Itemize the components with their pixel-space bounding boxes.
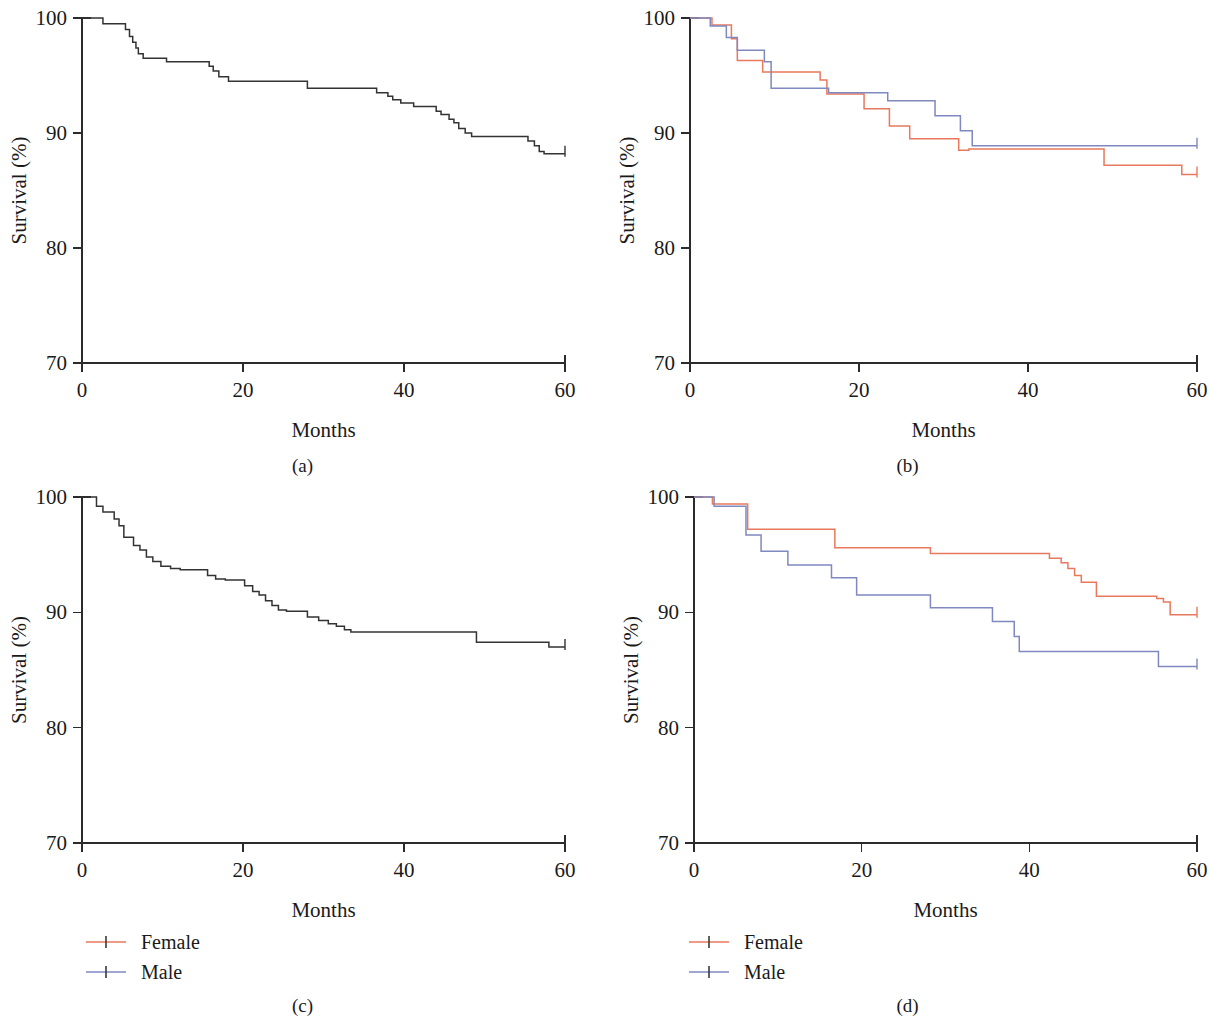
panel-c-ytick-label-90: 90: [46, 600, 67, 624]
panel-d-legend-label-female: Female: [744, 931, 803, 954]
panel-c-xtick-label-0: 0: [77, 858, 88, 882]
panel-c-legend-item-female: Female: [85, 930, 200, 954]
panel-b-caption-wrap: (b): [605, 455, 1210, 477]
panel-c-legend-item-male: Male: [85, 960, 200, 984]
panel-b-caption: (b): [896, 455, 918, 476]
panel-b-xtick-label-40: 40: [1018, 378, 1039, 402]
panel-a-xtick-label-0: 0: [77, 378, 88, 402]
panel-a-caption-wrap: (a): [0, 455, 605, 477]
panel-d-axis-lines: [694, 497, 1197, 843]
panel-b-labels: 7080901000204060MonthsSurvival (%): [615, 6, 1208, 442]
panel-c-ytick-label-100: 100: [36, 485, 68, 509]
panel-a-axis-lines: [82, 18, 565, 363]
panel-a-xtick-label-40: 40: [394, 378, 415, 402]
panel-b-ytick-label-80: 80: [654, 236, 675, 260]
panel-b-curve-female: [690, 18, 1197, 174]
panel-c-curve-overall: [82, 497, 565, 647]
panel-c-ytick-label-80: 80: [46, 716, 67, 740]
panel-c-ylabel: Survival (%): [7, 616, 31, 724]
male-legend-swatch-icon: [85, 963, 127, 981]
panel-d-curve-female: [694, 497, 1197, 615]
panel-a-ytick-label-70: 70: [46, 351, 67, 375]
panel-d-ytick-label-80: 80: [658, 716, 679, 740]
female-legend-swatch-icon: [688, 933, 730, 951]
panel-c-plot: 7080901000204060MonthsSurvival (%): [0, 480, 605, 890]
panel-c-legend: Female Male: [85, 930, 200, 984]
panel-c-axis-lines: [82, 497, 565, 843]
panel-a-curves: [82, 18, 565, 157]
panel-d-xtick-label-40: 40: [1019, 858, 1040, 882]
panel-d-legend: Female Male: [688, 930, 803, 984]
panel-d-ytick-label-90: 90: [658, 600, 679, 624]
panel-a-labels: 7080901000204060MonthsSurvival (%): [7, 6, 576, 442]
panel-c-labels: 7080901000204060MonthsSurvival (%): [7, 485, 576, 922]
panel-c-xlabel: Months: [291, 898, 355, 922]
panel-c-xtick-label-40: 40: [394, 858, 415, 882]
panel-d-ylabel: Survival (%): [619, 616, 643, 724]
panel-c-xtick-label-60: 60: [555, 858, 576, 882]
panel-b-curve-male: [690, 18, 1197, 146]
kaplan-meier-figure: 7080901000204060MonthsSurvival (%) (a) 7…: [0, 0, 1210, 1021]
panel-c: 7080901000204060MonthsSurvival (%) Femal…: [0, 480, 605, 1021]
panel-a: 7080901000204060MonthsSurvival (%) (a): [0, 0, 605, 480]
panel-a-plot: 7080901000204060MonthsSurvival (%): [0, 0, 605, 480]
panel-a-ylabel: Survival (%): [7, 137, 31, 245]
panel-b-axis-lines: [690, 18, 1197, 363]
female-legend-swatch-icon: [85, 933, 127, 951]
panel-b-xlabel: Months: [911, 418, 975, 442]
panel-b-xtick-label-0: 0: [685, 378, 696, 402]
panel-c-ytick-label-70: 70: [46, 831, 67, 855]
panel-d-ytick-label-70: 70: [658, 831, 679, 855]
panel-b-plot: 7080901000204060MonthsSurvival (%): [605, 0, 1210, 480]
panel-b-curves: [690, 18, 1197, 177]
panel-d-xlabel: Months: [913, 898, 977, 922]
panel-d-curves: [694, 497, 1197, 670]
panel-d: 7080901000204060MonthsSurvival (%) Femal…: [605, 480, 1210, 1021]
panel-b: 7080901000204060MonthsSurvival (%) (b): [605, 0, 1210, 480]
panel-d-legend-item-male: Male: [688, 960, 803, 984]
panel-d-labels: 7080901000204060MonthsSurvival (%): [619, 485, 1208, 922]
panel-d-caption-wrap: (d): [605, 995, 1210, 1017]
panel-a-ytick-label-80: 80: [46, 236, 67, 260]
panel-d-xtick-label-60: 60: [1187, 858, 1208, 882]
panel-d-xtick-label-0: 0: [689, 858, 700, 882]
panel-d-curve-male: [694, 497, 1197, 667]
panel-c-legend-label-male: Male: [141, 961, 182, 984]
male-legend-swatch-icon: [688, 963, 730, 981]
panel-a-axes: [73, 18, 565, 372]
panel-d-plot: 7080901000204060MonthsSurvival (%): [605, 480, 1210, 890]
panel-c-caption: (c): [292, 995, 313, 1016]
panel-b-axes: [681, 18, 1197, 372]
panel-c-legend-label-female: Female: [141, 931, 200, 954]
panel-a-caption: (a): [292, 455, 313, 476]
panel-d-caption: (d): [896, 995, 918, 1016]
panel-a-ytick-label-90: 90: [46, 121, 67, 145]
panel-d-xtick-label-20: 20: [851, 858, 872, 882]
panel-d-ytick-label-100: 100: [648, 485, 680, 509]
panel-c-caption-wrap: (c): [0, 995, 605, 1017]
panel-c-curves: [82, 497, 565, 650]
panel-d-legend-label-male: Male: [744, 961, 785, 984]
panel-a-xlabel: Months: [291, 418, 355, 442]
panel-b-ytick-label-100: 100: [644, 6, 676, 30]
panel-b-ytick-label-90: 90: [654, 121, 675, 145]
panel-a-ytick-label-100: 100: [36, 6, 68, 30]
panel-c-xtick-label-20: 20: [233, 858, 254, 882]
panel-a-xtick-label-20: 20: [233, 378, 254, 402]
panel-b-ylabel: Survival (%): [615, 137, 639, 245]
panel-b-ytick-label-70: 70: [654, 351, 675, 375]
panel-a-xtick-label-60: 60: [555, 378, 576, 402]
panel-d-legend-item-female: Female: [688, 930, 803, 954]
panel-b-xtick-label-60: 60: [1187, 378, 1208, 402]
panel-a-curve-overall: [82, 18, 565, 154]
panel-b-xtick-label-20: 20: [849, 378, 870, 402]
